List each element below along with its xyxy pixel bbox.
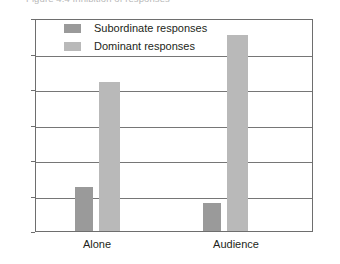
gridline-6	[36, 127, 312, 128]
legend-item-dominant: Dominant responses	[64, 38, 207, 55]
legend-swatch-icon-dominant	[64, 42, 81, 51]
bar-alone-subordinate	[75, 187, 93, 231]
bar-audience-dominant	[227, 35, 248, 231]
y-tick-mark-0	[31, 232, 35, 233]
bar-audience-subordinate	[203, 203, 221, 231]
chart-title-fragment: Figure 4.4 Inhibition of responses	[26, 0, 266, 5]
gridline-8	[36, 91, 312, 92]
bar-alone-dominant	[99, 82, 120, 231]
x-axis-label-audience: Audience	[213, 238, 259, 250]
gridline-4	[36, 162, 312, 163]
chart-screenshot: Figure 4.4 Inhibition of responses 12 10…	[0, 0, 340, 264]
legend-swatch-icon-subordinate	[64, 24, 81, 33]
legend-label-subordinate: Subordinate responses	[94, 23, 207, 34]
x-axis-label-alone: Alone	[83, 238, 111, 250]
legend-label-dominant: Dominant responses	[94, 41, 195, 52]
legend-item-subordinate: Subordinate responses	[64, 20, 207, 37]
chart-legend: Subordinate responses Dominant responses	[64, 20, 207, 56]
